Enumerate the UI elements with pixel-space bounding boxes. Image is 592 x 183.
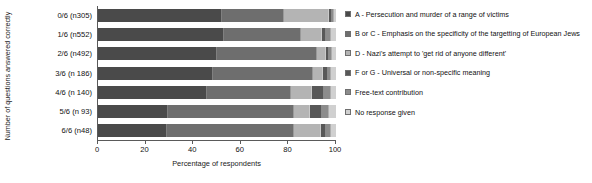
bar-segment	[217, 47, 317, 60]
legend-swatch-icon	[345, 109, 351, 115]
bar-segment	[301, 28, 321, 41]
bar-segment	[294, 105, 309, 118]
legend-item: D - Nazi's attempt to 'get rid of anyone…	[345, 48, 506, 58]
chart-legend: A - Persecution and murder of a range of…	[345, 6, 591, 132]
bar-segment	[331, 67, 336, 80]
legend-swatch-icon	[345, 11, 351, 17]
legend-label: A - Persecution and murder of a range of…	[355, 10, 509, 19]
x-axis-tick-label: 40	[177, 145, 207, 155]
bar-segment	[331, 86, 336, 99]
bar-segment	[98, 47, 217, 60]
y-axis-tick-label: 0/6 (n305)	[14, 11, 92, 20]
bar-segment	[322, 105, 329, 118]
x-axis-tick-mark	[145, 141, 146, 144]
bar-6-6-n48-	[98, 124, 336, 137]
x-axis-tick-mark	[97, 141, 98, 144]
y-axis-tick-label: 6/6 (n48)	[14, 126, 92, 135]
x-axis-tick-label: 60	[225, 145, 255, 155]
x-axis-title: Percentage of respondents	[97, 159, 336, 169]
legend-label: No response given	[355, 108, 415, 117]
bar-2-6-n492-	[98, 47, 336, 60]
bar-segment	[207, 86, 290, 99]
legend-label: B or C - Emphasis on the specificity of …	[355, 29, 580, 38]
legend-label: F or G - Universal or non-specific meani…	[355, 68, 490, 77]
bar-segment	[224, 28, 301, 41]
bar-1-6-n552-	[98, 28, 336, 41]
bar-segment	[291, 86, 312, 99]
bar-segment	[312, 86, 324, 99]
x-axis-tick-label: 20	[130, 145, 160, 155]
bar-segment	[98, 105, 168, 118]
bar-segment	[98, 86, 207, 99]
legend-item: A - Persecution and murder of a range of…	[345, 9, 509, 19]
bar-4-6-n-140-	[98, 86, 336, 99]
bar-segment	[168, 105, 294, 118]
legend-label: Free-text contribution	[355, 88, 423, 97]
legend-item: F or G - Universal or non-specific meani…	[345, 68, 490, 78]
y-axis-tick-label: 1/6 (n552)	[14, 30, 92, 39]
bar-segment	[331, 124, 336, 137]
x-axis-ticks: 020406080100	[97, 141, 336, 145]
y-axis-tick-label: 3/6 (n 186)	[14, 69, 92, 78]
bar-segment	[222, 9, 284, 22]
legend-item: B or C - Emphasis on the specificity of …	[345, 29, 580, 39]
bar-segment	[98, 124, 167, 137]
bar-segment	[98, 9, 222, 22]
x-axis-tick-mark	[335, 141, 336, 144]
bar-segment	[332, 47, 336, 60]
bar-segment	[284, 9, 329, 22]
y-axis-tick-label: 2/6 (n492)	[14, 49, 92, 58]
bar-segment	[213, 67, 313, 80]
bar-segment	[98, 67, 213, 80]
legend-swatch-icon	[345, 89, 351, 95]
bar-segment	[310, 105, 322, 118]
legend-item: Free-text contribution	[345, 87, 423, 97]
x-axis-tick-mark	[192, 141, 193, 144]
legend-swatch-icon	[345, 70, 351, 76]
plot-area	[97, 6, 336, 141]
bar-segment	[167, 124, 294, 137]
y-axis-title: Number of questions answered correctly	[2, 6, 14, 146]
bar-5-6-n-93-	[98, 105, 336, 118]
x-axis-tick-mark	[287, 141, 288, 144]
bar-segment	[294, 124, 320, 137]
x-axis-tick-label: 80	[272, 145, 302, 155]
y-axis-tick-label: 4/6 (n 140)	[14, 88, 92, 97]
bar-segment	[329, 105, 336, 118]
legend-item: No response given	[345, 107, 415, 117]
bar-3-6-n-186-	[98, 67, 336, 80]
bar-segment	[334, 9, 336, 22]
bar-segment	[324, 86, 331, 99]
legend-swatch-icon	[345, 31, 351, 37]
bar-segment	[331, 28, 336, 41]
bar-segment	[317, 47, 327, 60]
legend-label: D - Nazi's attempt to 'get rid of anyone…	[355, 49, 506, 58]
bar-segment	[313, 67, 323, 80]
stacked-bar-chart: Number of questions answered correctly 0…	[0, 0, 592, 183]
x-axis-tick-mark	[240, 141, 241, 144]
bar-0-6-n305-	[98, 9, 336, 22]
x-axis-tick-label: 100	[320, 145, 350, 155]
y-axis-tick-labels: 0/6 (n305)1/6 (n552)2/6 (n492)3/6 (n 186…	[14, 6, 92, 140]
legend-swatch-icon	[345, 50, 351, 56]
bar-segment	[98, 28, 224, 41]
x-axis-tick-label: 0	[82, 145, 112, 155]
y-axis-tick-label: 5/6 (n 93)	[14, 107, 92, 116]
